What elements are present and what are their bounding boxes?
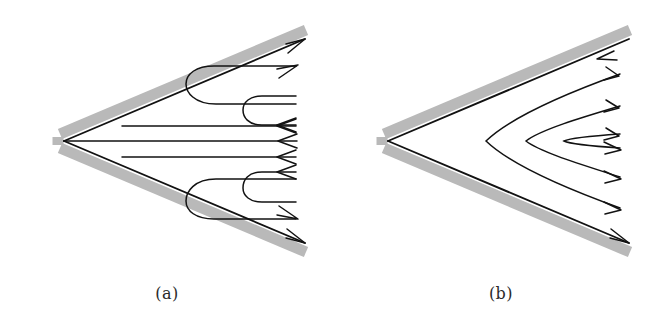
streamline-a-lower-inner	[243, 165, 296, 202]
panel-a-graphic	[0, 0, 334, 321]
panel-b-graphic	[334, 0, 668, 321]
streamline-b-middle	[526, 100, 621, 183]
wedge-shading-b	[382, 30, 630, 252]
wedge-walls-b	[388, 39, 629, 243]
streamline-a-inflow-upper	[122, 119, 296, 133]
streamline-b-inner	[564, 128, 621, 154]
panel-a: (a)	[0, 0, 334, 321]
panel-b-caption: (b)	[334, 284, 668, 303]
wall-arrowhead-b-upper	[597, 51, 617, 60]
streamline-a-centreline	[64, 134, 297, 148]
panel-a-caption: (a)	[0, 284, 334, 303]
streamline-a-inflow-lower	[122, 150, 296, 164]
figure-root: (a)	[0, 0, 668, 321]
panel-b: (b)	[334, 0, 668, 321]
